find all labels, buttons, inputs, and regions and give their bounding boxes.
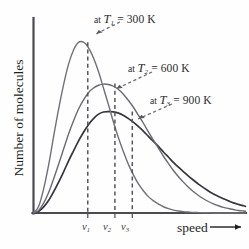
curve-temperature-3	[34, 112, 246, 213]
x-tick-label-v2: v2	[103, 221, 111, 233]
annotation-prefix-t2: at	[128, 64, 138, 74]
annotation-label-t3: at T3 = 900 K	[150, 93, 212, 108]
peak-dashed-lines	[88, 42, 133, 218]
annotation-symbol-t1: T	[104, 12, 111, 26]
x-tick-label-v3: v3	[121, 221, 129, 233]
annotation-equals-t2: =	[148, 62, 161, 74]
chart-figure: at T1 = 300 K at T2 = 600 K at T3 = 900 …	[0, 0, 249, 249]
x-tick-subscript-v2: 2	[108, 226, 111, 233]
annotation-value-t1: 300 K	[127, 13, 156, 25]
annotation-symbol-t3: T	[160, 93, 167, 107]
annotation-label-t2: at T2 = 600 K	[128, 61, 190, 76]
annotation-label-t1: at T1 = 300 K	[94, 12, 156, 27]
distribution-plot	[0, 0, 249, 249]
annotation-equals-t3: =	[170, 94, 183, 106]
y-axis-title: Number of molecules	[11, 43, 27, 193]
annotation-prefix-t3: at	[150, 96, 160, 106]
leader-arrowhead-t2	[117, 85, 123, 89]
annotation-symbol-t2: T	[138, 61, 145, 75]
annotation-equals-t1: =	[114, 13, 127, 25]
annotation-value-t2: 600 K	[161, 62, 190, 74]
annotation-value-t3: 900 K	[183, 94, 212, 106]
x-tick-subscript-v3: 3	[126, 226, 129, 233]
annotation-prefix-t1: at	[94, 15, 104, 25]
x-tick-label-v1: v1	[82, 221, 90, 233]
x-tick-subscript-v1: 1	[87, 226, 90, 233]
speed-axis-arrow	[210, 224, 241, 229]
x-axis-title: speed	[177, 220, 208, 236]
